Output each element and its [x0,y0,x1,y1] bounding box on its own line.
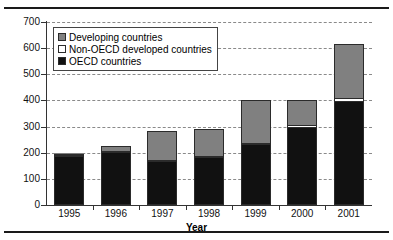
bar-segment-developing [334,44,364,98]
bar-stack [147,131,177,205]
y-axis-tick-label: 0 [6,200,40,210]
x-axis-line [46,205,372,206]
legend-label: Developing countries [69,32,162,43]
x-axis-tick-label: 2001 [322,208,376,219]
top-rule [4,7,389,9]
y-axis-tick-label: 600 [6,43,40,53]
y-axis-tick-label: 300 [6,122,40,132]
bar-stack [54,153,84,205]
bar-segment-oecd [147,162,177,205]
legend-item: Non-OECD developed countries [58,43,212,55]
legend-item: Developing countries [58,31,212,43]
bar-segment-oecd [241,145,271,205]
bar-segment-oecd [54,157,84,205]
bar-stack [101,146,131,206]
bar-segment-oecd [334,102,364,205]
y-axis-tick-label: 400 [6,95,40,105]
legend-swatch-oecd [58,57,66,65]
y-axis-tick-label: 200 [6,148,40,158]
legend-label: OECD countries [69,56,141,67]
legend-swatch-developing [58,33,66,41]
bar-segment-developing [241,100,271,143]
y-axis-tick-label: 500 [6,69,40,79]
bar-stack [334,44,364,205]
bar-segment-developing [194,129,224,156]
bar-segment-oecd [101,153,131,205]
bar-segment-developing [287,100,317,125]
chart-legend: Developing countries Non-OECD developed … [53,27,218,71]
bar-stack [287,100,317,205]
y-axis-tick-label: 100 [6,174,40,184]
bar-segment-developing [147,131,177,160]
bar-segment-oecd [287,128,317,205]
chart-figure: 0100200300400500600700 19951996199719981… [0,0,393,240]
legend-label: Non-OECD developed countries [69,44,212,55]
x-axis-title: Year [0,222,393,233]
bar-stack [241,100,271,205]
y-axis-tick-label: 700 [6,17,40,27]
legend-item: OECD countries [58,55,212,67]
bar-segment-oecd [194,158,224,205]
legend-swatch-non-oecd [58,45,66,53]
bar-stack [194,129,224,205]
y-axis-labels: 0100200300400500600700 [0,0,40,240]
